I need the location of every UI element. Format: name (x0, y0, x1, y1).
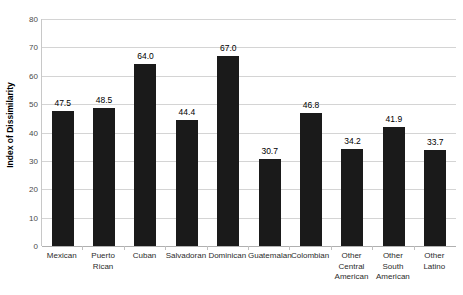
x-category-label: Guatemalan (248, 251, 289, 262)
bar-value-label: 33.7 (427, 137, 444, 147)
x-tick (165, 246, 166, 250)
bar-value-label: 34.2 (344, 136, 361, 146)
x-category-label: Dominican (207, 251, 248, 262)
y-tick-label: 80 (18, 15, 38, 24)
bar-slot: 33.7 (415, 19, 456, 246)
y-tick-label: 50 (18, 100, 38, 109)
x-category-label: Mexican (41, 251, 82, 262)
bar-chart: Index of Dissimilarity 01020304050607080… (0, 0, 463, 295)
bar-slot: 64.0 (125, 19, 166, 246)
bar-slot: 46.8 (290, 19, 331, 246)
bar[interactable] (134, 64, 156, 246)
plot-area: 47.548.564.044.467.030.746.834.241.933.7 (41, 19, 455, 246)
x-tick (414, 246, 415, 250)
bar[interactable] (93, 108, 115, 246)
x-tick (289, 246, 290, 250)
y-tick-label: 30 (18, 156, 38, 165)
bar-value-label: 47.5 (54, 98, 71, 108)
bar-value-label: 44.4 (179, 107, 196, 117)
bar-slot: 30.7 (249, 19, 290, 246)
x-axis-ticks (41, 246, 455, 250)
bar[interactable] (176, 120, 198, 246)
y-axis-tick-labels: 01020304050607080 (18, 0, 38, 250)
y-tick-label: 0 (18, 242, 38, 251)
bar[interactable] (217, 56, 239, 246)
x-tick (248, 246, 249, 250)
x-category-label: OtherLatino (414, 251, 455, 272)
y-axis-title-text: Index of Dissimilarity (5, 82, 15, 168)
bar-value-label: 48.5 (96, 95, 113, 105)
x-category-label: Other SouthAmerican (372, 251, 413, 283)
bar-slot: 47.5 (42, 19, 83, 246)
y-tick-label: 70 (18, 43, 38, 52)
bar[interactable] (300, 113, 322, 246)
y-tick-label: 10 (18, 213, 38, 222)
y-tick-label: 20 (18, 185, 38, 194)
x-tick (331, 246, 332, 250)
bar-slot: 48.5 (83, 19, 124, 246)
x-tick (82, 246, 83, 250)
x-axis-category-labels: MexicanPuertoRicanCubanSalvadoranDominic… (41, 251, 455, 295)
bar[interactable] (52, 111, 74, 246)
bar[interactable] (424, 150, 446, 246)
bar[interactable] (383, 127, 405, 246)
x-category-label: PuertoRican (82, 251, 123, 272)
y-tick-label: 40 (18, 128, 38, 137)
bar-value-label: 67.0 (220, 43, 237, 53)
x-tick (207, 246, 208, 250)
x-category-label: Cuban (124, 251, 165, 262)
bar-slot: 41.9 (373, 19, 414, 246)
bar-slot: 67.0 (208, 19, 249, 246)
bar[interactable] (259, 159, 281, 246)
x-category-label: Salvadoran (165, 251, 206, 262)
bar[interactable] (341, 149, 363, 246)
y-axis-title: Index of Dissimilarity (0, 0, 20, 250)
y-tick-label: 60 (18, 71, 38, 80)
bar-slot: 44.4 (166, 19, 207, 246)
x-tick (124, 246, 125, 250)
bar-slot: 34.2 (332, 19, 373, 246)
x-tick (372, 246, 373, 250)
bar-value-label: 41.9 (386, 114, 403, 124)
bar-value-label: 30.7 (261, 146, 278, 156)
x-category-label: OtherCentralAmerican (331, 251, 372, 283)
bar-value-label: 46.8 (303, 100, 320, 110)
x-category-label: Colombian (289, 251, 330, 262)
bar-value-label: 64.0 (137, 51, 154, 61)
bars-layer: 47.548.564.044.467.030.746.834.241.933.7 (42, 19, 456, 246)
